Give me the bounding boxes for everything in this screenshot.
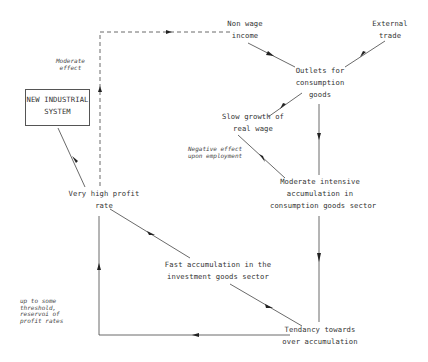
edge-profit-to-newsystem xyxy=(58,128,85,187)
arrowhead-right-icon xyxy=(166,30,172,34)
node-non-wage-income: Non wage income xyxy=(215,18,275,42)
arrowhead-left-icon xyxy=(192,333,199,337)
annotation-moderate-effect: Moderate effect xyxy=(56,58,85,71)
arrowhead-icon xyxy=(280,103,286,109)
arrowhead-up-icon xyxy=(98,86,102,92)
arrowhead-up-icon xyxy=(97,263,101,270)
arrowhead-down-icon xyxy=(317,253,321,262)
node-slow-growth-real-wage: Slow growth of real wage xyxy=(213,111,293,135)
diagram-canvas: Non wage income External trade Outlets f… xyxy=(0,0,428,362)
dashed-edge-profit-to-nonwage xyxy=(98,30,230,186)
arrowhead-icon xyxy=(147,231,155,235)
node-tendancy-over-accumulation: Tendancy towards over accumulation xyxy=(280,324,360,348)
node-moderate-intensive-accumulation: Moderate intensive accumulation in consu… xyxy=(270,176,370,212)
arrowhead-icon xyxy=(265,304,273,308)
arrowhead-icon xyxy=(266,51,274,56)
arrowhead-down-icon xyxy=(317,133,321,140)
node-outlets-consumption-goods: Outlets for consumption goods xyxy=(285,65,355,101)
annotation-threshold: up to some threshold, reservoi of profit… xyxy=(20,298,63,324)
node-very-high-profit-rate: Very high profit rate xyxy=(64,188,144,212)
edge-external-to-outlets xyxy=(345,41,385,67)
node-new-industrial-system-box: NEW INDUSTRIAL SYSTEM xyxy=(25,89,90,126)
annotation-negative-effect: Negative effect upon employment xyxy=(188,146,242,159)
node-external-trade: External trade xyxy=(365,18,415,42)
arrowhead-icon xyxy=(72,156,78,163)
node-fast-accumulation-investment: Fast accumulation in the investment good… xyxy=(163,259,273,283)
node-new-industrial-system: NEW INDUSTRIAL SYSTEM xyxy=(26,94,89,118)
